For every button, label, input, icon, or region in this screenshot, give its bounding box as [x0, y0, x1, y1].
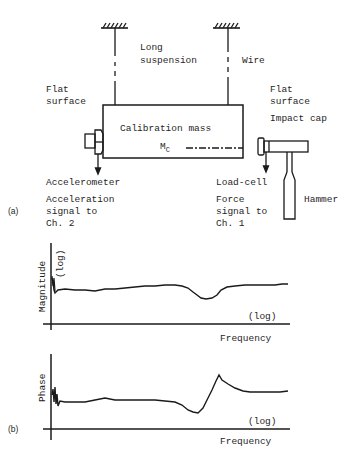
accelerometer-icon	[85, 130, 103, 174]
flat-surface-right-line2: surface	[270, 96, 310, 108]
panel-b-tag: (b)	[8, 424, 18, 434]
acceleration-signal-line3: Ch. 2	[46, 218, 75, 230]
magnitude-ylabel-scale: (log)	[55, 249, 66, 278]
acceleration-signal-line2: signal to	[46, 206, 97, 218]
calibration-diagram: Long suspension Wire Flat surface Flat s…	[0, 0, 358, 454]
flat-surface-left-line1: Flat	[46, 84, 69, 96]
magnitude-ylabel: Magnitude	[37, 261, 48, 312]
accelerometer-label: Accelerometer	[46, 177, 120, 189]
magnitude-curve	[52, 278, 288, 299]
hammer-label: Hammer	[304, 194, 338, 206]
mass-symbol-subscript: C	[166, 146, 170, 154]
force-signal-line3: Ch. 1	[216, 218, 245, 230]
ceiling-anchor-left-icon	[101, 23, 128, 28]
force-signal-line1: Force	[216, 194, 245, 206]
acceleration-signal-line1: Acceleration	[46, 194, 114, 206]
panel-a-tag: (a)	[8, 206, 18, 216]
calibration-mass-label: Calibration mass	[120, 123, 211, 135]
suspension-label-line1: Long	[140, 42, 163, 54]
flat-surface-left-line2: surface	[46, 96, 86, 108]
magnitude-xlabel: Frequency	[220, 333, 271, 345]
load-cell-label: Load-cell	[216, 177, 267, 189]
phase-ylabel: Phase	[37, 373, 48, 402]
phase-xlabel-scale: (log)	[248, 416, 277, 428]
suspension-label-line2: suspension	[140, 55, 197, 67]
phase-xlabel: Frequency	[220, 436, 271, 448]
impact-cap-label: Impact cap	[270, 113, 327, 125]
phase-curve	[52, 375, 288, 413]
flat-surface-right-line1: Flat	[270, 84, 293, 96]
magnitude-xlabel-scale: (log)	[248, 311, 277, 323]
wire-label: Wire	[242, 55, 265, 67]
force-signal-line2: signal to	[216, 206, 267, 218]
ceiling-anchor-right-icon	[213, 23, 240, 28]
mass-symbol: MC	[160, 141, 170, 157]
